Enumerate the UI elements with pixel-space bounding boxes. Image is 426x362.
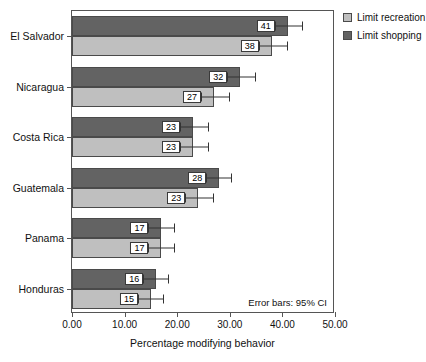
error-bar-cap-right xyxy=(287,42,288,51)
plot-area: 4138El Salvador3227Nicaragua2323Costa Ri… xyxy=(71,10,334,313)
error-bar-cap-right xyxy=(302,22,303,31)
y-axis-tick xyxy=(67,238,72,239)
x-axis-tick xyxy=(282,312,283,317)
y-axis-tick xyxy=(67,188,72,189)
error-bar xyxy=(227,76,256,77)
x-axis-tick xyxy=(230,312,231,317)
x-axis-title: Percentage modifying behavior xyxy=(71,337,334,349)
error-bar xyxy=(259,46,288,47)
error-bar-cap-right xyxy=(174,224,175,233)
error-bar-cap-left xyxy=(143,274,144,283)
y-axis-label-honduras: Honduras xyxy=(18,283,64,295)
error-bar-cap-right xyxy=(231,173,232,182)
error-bar-cap-left xyxy=(138,294,139,303)
bar-row: 17 xyxy=(72,218,333,238)
bar-row: 16 xyxy=(72,269,333,289)
data-label: 27 xyxy=(183,91,201,103)
error-bar-cap-left xyxy=(201,92,202,101)
legend-swatch-icon-shopping xyxy=(343,31,352,40)
plot-inner: 4138El Salvador3227Nicaragua2323Costa Ri… xyxy=(72,11,333,312)
error-bar xyxy=(138,298,164,299)
error-bar xyxy=(275,26,304,27)
error-bar xyxy=(180,147,209,148)
error-bar-cap-right xyxy=(255,72,256,81)
error-bar-cap-left xyxy=(227,72,228,81)
error-bar xyxy=(148,248,174,249)
bar-row: 28 xyxy=(72,168,333,188)
x-axis-tick xyxy=(335,312,336,317)
error-bar-cap-left xyxy=(206,173,207,182)
data-label: 38 xyxy=(241,40,259,52)
legend-swatch-icon-recreation xyxy=(343,13,352,22)
data-label: 15 xyxy=(120,293,138,305)
data-label: 17 xyxy=(130,242,148,254)
legend-label-shopping: Limit shopping xyxy=(357,30,421,41)
data-label: 16 xyxy=(125,273,143,285)
data-label: 23 xyxy=(162,121,180,133)
bar-row: 27 xyxy=(72,87,333,107)
y-axis-label-el-salvador: El Salvador xyxy=(10,30,64,42)
bar-row: 23 xyxy=(72,188,333,208)
bar-row: 38 xyxy=(72,36,333,56)
chart-legend: Limit recreation Limit shopping xyxy=(343,12,425,41)
error-bar-note: Error bars: 95% CI xyxy=(248,297,327,308)
bar-row: 23 xyxy=(72,137,333,157)
error-bar-cap-left xyxy=(148,224,149,233)
error-bar-cap-right xyxy=(208,143,209,152)
error-bar xyxy=(143,278,169,279)
legend-item-limit-shopping[interactable]: Limit shopping xyxy=(343,30,425,41)
x-axis-tick xyxy=(125,312,126,317)
error-bar-cap-left xyxy=(148,244,149,253)
x-axis-tick-label: 20.00 xyxy=(165,319,190,330)
bar-row: 23 xyxy=(72,117,333,137)
error-bar-cap-right xyxy=(208,123,209,132)
bar-el-salvador-shopping[interactable] xyxy=(72,16,288,36)
bar-chart: 4138El Salvador3227Nicaragua2323Costa Ri… xyxy=(0,0,426,362)
data-label: 17 xyxy=(130,222,148,234)
x-axis-tick-label: 30.00 xyxy=(217,319,242,330)
y-axis-label-costa-rica: Costa Rica xyxy=(13,131,64,143)
error-bar-cap-right xyxy=(168,274,169,283)
data-label: 32 xyxy=(209,71,227,83)
error-bar-cap-left xyxy=(275,22,276,31)
error-bar xyxy=(206,177,232,178)
y-axis-tick xyxy=(67,87,72,88)
data-label: 23 xyxy=(162,141,180,153)
data-label: 23 xyxy=(167,192,185,204)
y-axis-label-panama: Panama xyxy=(25,232,64,244)
y-axis-tick xyxy=(67,36,72,37)
legend-item-limit-recreation[interactable]: Limit recreation xyxy=(343,12,425,23)
data-label: 41 xyxy=(257,20,275,32)
y-axis-label-nicaragua: Nicaragua xyxy=(16,81,64,93)
error-bar-cap-left xyxy=(180,123,181,132)
legend-label-recreation: Limit recreation xyxy=(357,12,425,23)
x-axis-tick-label: 0.00 xyxy=(62,319,81,330)
error-bar-cap-left xyxy=(259,42,260,51)
error-bar xyxy=(148,228,174,229)
error-bar-cap-right xyxy=(163,294,164,303)
x-axis-tick-label: 10.00 xyxy=(112,319,137,330)
error-bar-cap-right xyxy=(213,193,214,202)
x-axis-tick xyxy=(177,312,178,317)
error-bar xyxy=(185,197,214,198)
data-label: 28 xyxy=(188,172,206,184)
error-bar-cap-right xyxy=(229,92,230,101)
error-bar-cap-left xyxy=(180,143,181,152)
x-axis-tick-label: 50.00 xyxy=(322,319,347,330)
y-axis-label-guatemala: Guatemala xyxy=(13,182,64,194)
bar-row: 17 xyxy=(72,238,333,258)
x-axis-tick xyxy=(72,312,73,317)
y-axis-tick xyxy=(67,137,72,138)
bar-row: 32 xyxy=(72,67,333,87)
error-bar xyxy=(180,127,209,128)
error-bar xyxy=(201,96,230,97)
y-axis-tick xyxy=(67,289,72,290)
bar-row: 41 xyxy=(72,16,333,36)
x-axis-tick-label: 40.00 xyxy=(270,319,295,330)
error-bar-cap-right xyxy=(174,244,175,253)
error-bar-cap-left xyxy=(185,193,186,202)
